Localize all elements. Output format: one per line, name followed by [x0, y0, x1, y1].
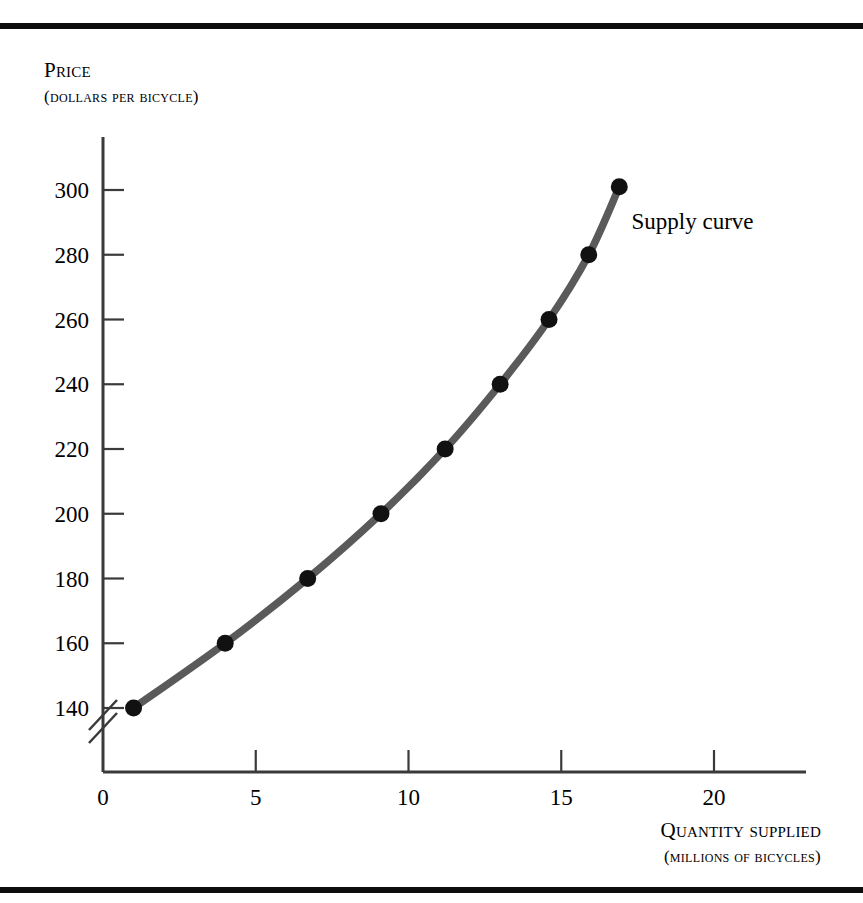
- svg-text:200: 200: [55, 502, 90, 527]
- svg-text:140: 140: [55, 696, 90, 721]
- svg-text:20: 20: [703, 785, 726, 810]
- svg-text:Supply curve: Supply curve: [632, 209, 754, 234]
- svg-text:15: 15: [550, 785, 573, 810]
- svg-text:5: 5: [250, 785, 262, 810]
- supply-curve-line: [134, 187, 620, 708]
- supply-curve-plot: 140160180200220240260280300 05101520 Sup…: [0, 0, 863, 903]
- supply-curve-markers: [125, 178, 628, 716]
- svg-text:240: 240: [55, 372, 90, 397]
- svg-text:160: 160: [55, 631, 90, 656]
- svg-text:260: 260: [55, 308, 90, 333]
- svg-text:220: 220: [55, 437, 90, 462]
- y-axis-tick-labels: 140160180200220240260280300: [55, 178, 90, 721]
- svg-text:180: 180: [55, 567, 90, 592]
- svg-text:280: 280: [55, 243, 90, 268]
- x-axis-tick-labels: 05101520: [97, 785, 725, 810]
- supply-curve-label: Supply curve: [632, 209, 754, 234]
- x-axis-ticks: [256, 750, 714, 772]
- svg-text:0: 0: [97, 785, 109, 810]
- y-axis-ticks: [103, 190, 124, 708]
- svg-text:300: 300: [55, 178, 90, 203]
- figure-container: Price (dollars per bicycle) Quantity sup…: [0, 0, 863, 903]
- svg-text:10: 10: [397, 785, 420, 810]
